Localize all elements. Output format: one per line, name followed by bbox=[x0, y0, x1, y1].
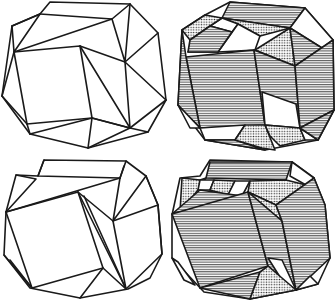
polyhedron-bottom-right-shaded bbox=[172, 160, 330, 299]
polyhedron-bottom-left-wireframe bbox=[4, 160, 162, 298]
polyhedron-top-right-shaded bbox=[178, 2, 334, 150]
polyhedra-diagram bbox=[0, 0, 335, 301]
polyhedron-top-left-wireframe bbox=[2, 2, 166, 148]
figure bbox=[0, 0, 335, 301]
